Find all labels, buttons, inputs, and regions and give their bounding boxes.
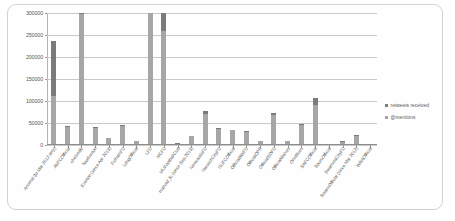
y-axis-tick-label: 100000: [26, 98, 43, 104]
bar-segment-mentions[interactable]: [120, 126, 125, 145]
bar-segment-retweets[interactable]: [313, 98, 318, 105]
bar-segment-mentions[interactable]: [230, 130, 235, 145]
bar-segment-mentions[interactable]: [161, 31, 166, 145]
chart-container: 050000100000150000200000250000300000 Ars…: [0, 0, 455, 221]
bar-group[interactable]: [240, 13, 254, 145]
bar-group[interactable]: [212, 13, 226, 145]
bar-group[interactable]: [350, 13, 364, 145]
bar-group[interactable]: [226, 13, 240, 145]
bar-group[interactable]: [116, 13, 130, 145]
bar-group[interactable]: [61, 13, 75, 145]
bar-group[interactable]: [75, 13, 89, 145]
legend-swatch-icon: [385, 116, 388, 119]
bar-group[interactable]: [267, 13, 281, 145]
legend-label: retweets received: [391, 103, 429, 108]
bar-group[interactable]: [281, 13, 295, 145]
y-axis-tick-label: 250000: [26, 32, 43, 38]
bars-group: [47, 13, 377, 145]
bar-group[interactable]: [336, 13, 350, 145]
bar-segment-mentions[interactable]: [51, 96, 56, 145]
bar-segment-retweets[interactable]: [161, 13, 166, 31]
y-axis-tick-mark: [45, 145, 48, 146]
bar-segment-mentions[interactable]: [271, 115, 276, 145]
bar-group[interactable]: [88, 13, 102, 145]
y-axis-tick-label: 300000: [26, 10, 43, 16]
bar-segment-mentions[interactable]: [148, 13, 153, 145]
bar-group[interactable]: [322, 13, 336, 145]
bar-group[interactable]: [143, 13, 157, 145]
legend-item[interactable]: retweets received: [385, 103, 455, 108]
y-axis-tick-label: 200000: [26, 54, 43, 60]
bar-segment-mentions[interactable]: [65, 127, 70, 145]
bar-group[interactable]: [363, 13, 377, 145]
y-axis-tick-label: 50000: [29, 120, 43, 126]
legend-label: @mentions: [391, 115, 416, 120]
bar-group[interactable]: [253, 13, 267, 145]
bar-segment-mentions[interactable]: [93, 128, 98, 145]
bar-group[interactable]: [308, 13, 322, 145]
bar-segment-mentions[interactable]: [203, 114, 208, 145]
legend-item[interactable]: @mentions: [385, 115, 455, 120]
bar-segment-mentions[interactable]: [79, 14, 84, 145]
bar-group[interactable]: [185, 13, 199, 145]
plot-area: 050000100000150000200000250000300000: [47, 13, 377, 145]
bar-segment-mentions[interactable]: [216, 129, 221, 145]
bar-group[interactable]: [130, 13, 144, 145]
bar-group[interactable]: [295, 13, 309, 145]
bar-group[interactable]: [171, 13, 185, 145]
bar-group[interactable]: [198, 13, 212, 145]
bar-segment-retweets[interactable]: [51, 41, 56, 96]
y-axis-tick-label: 150000: [26, 76, 43, 82]
bar-group[interactable]: [102, 13, 116, 145]
bar-segment-mentions[interactable]: [299, 125, 304, 145]
chart-legend: retweets received@mentions: [385, 103, 455, 127]
bar-group[interactable]: [157, 13, 171, 145]
legend-swatch-icon: [385, 104, 388, 107]
bar-group[interactable]: [47, 13, 61, 145]
y-axis-tick-label: 0: [40, 142, 43, 148]
bar-segment-mentions[interactable]: [313, 105, 318, 145]
